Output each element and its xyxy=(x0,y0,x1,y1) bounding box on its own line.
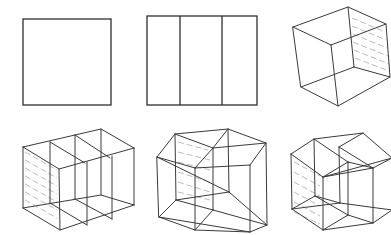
figure-square-three-strips xyxy=(147,16,257,105)
figure-hypercube-projection xyxy=(157,129,267,232)
hatch-shading xyxy=(352,18,389,71)
diagram-canvas xyxy=(0,0,391,235)
hatch-shading xyxy=(294,162,320,224)
figure-square xyxy=(23,19,111,105)
hatch-shading xyxy=(178,142,210,200)
figure-cube-three-slices xyxy=(23,129,134,230)
figure-cube xyxy=(293,7,390,106)
figure-hypercube-projection-variant xyxy=(291,133,391,230)
hatch-shading xyxy=(25,152,57,218)
